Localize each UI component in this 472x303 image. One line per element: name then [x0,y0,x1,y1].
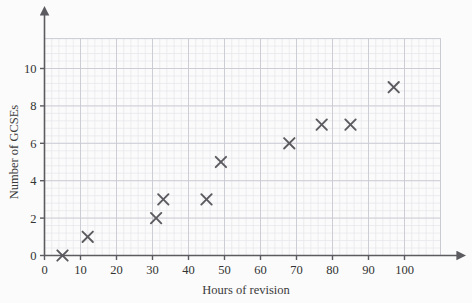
x-tick-label: 0 [41,263,47,277]
x-tick-label: 90 [362,263,375,277]
x-tick-label: 20 [110,263,123,277]
x-tick-label: 60 [254,263,267,277]
y-tick-label: 4 [30,174,37,188]
x-tick-label: 70 [290,263,303,277]
y-tick-label: 2 [30,212,36,226]
x-tick-label: 80 [326,263,339,277]
x-tick-label: 50 [218,263,231,277]
scatter-chart: 0102030405060708090100 0246810 Hours of … [0,0,472,303]
chart-canvas: 0102030405060708090100 0246810 Hours of … [0,0,472,303]
x-tick-label: 30 [146,263,159,277]
y-tick-label: 8 [30,99,36,113]
y-tick-label: 0 [30,249,36,263]
x-tick-label: 40 [182,263,195,277]
y-tick-label: 10 [24,62,37,76]
y-tick-label: 6 [30,137,36,151]
x-tick-label: 10 [74,263,87,277]
x-axis-title: Hours of revision [202,283,290,297]
x-tick-label: 100 [395,263,414,277]
y-axis-title: Number of GCSEs [7,105,21,200]
chart-background [0,0,472,303]
